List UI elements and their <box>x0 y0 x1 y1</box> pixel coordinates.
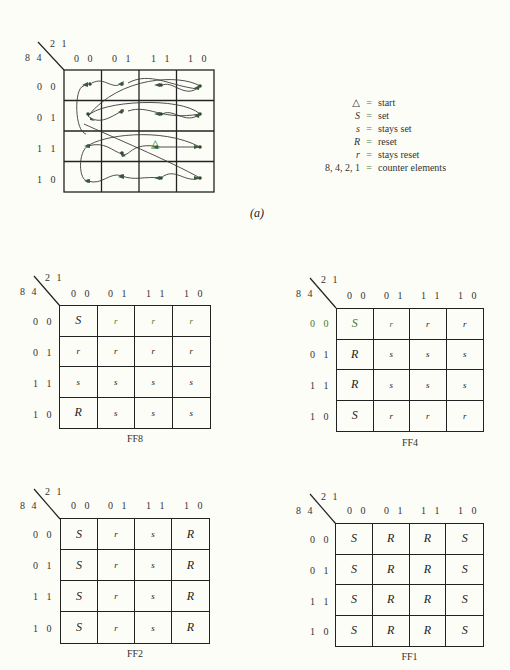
row-axis-label: 8 4 <box>25 52 44 63</box>
kmap-cell: r <box>410 401 447 432</box>
kmap-cell: R <box>410 524 447 555</box>
kmap-cell: r <box>60 337 98 368</box>
row-header: 1 0 <box>310 411 332 422</box>
kmap-cell: r <box>98 612 135 643</box>
kmap-cell: S <box>336 524 373 555</box>
legend-value: counter elements <box>378 162 446 173</box>
legend-key: R <box>265 136 360 147</box>
kmap-cell: S <box>336 555 373 586</box>
legend-item: s = stays set <box>265 122 446 135</box>
kmap-cell: S <box>446 616 483 647</box>
col-header: 0 0 <box>71 288 93 299</box>
legend-value: set <box>378 110 389 121</box>
kmap-cell: r <box>135 337 173 368</box>
row-axis-label: 8 4 <box>296 505 315 516</box>
col-axis-label: 2 1 <box>321 274 340 285</box>
kmap-cell: s <box>135 367 173 398</box>
kmap-grid: S r r r R s s s R s s s S r r r <box>336 308 484 432</box>
row-header: 0 1 <box>310 349 332 360</box>
row-header: 0 0 <box>33 529 55 540</box>
kmap-cell: r <box>98 337 136 368</box>
kmap-cell: R <box>410 616 447 647</box>
row-header: 0 0 <box>33 316 55 327</box>
col-header: 0 1 <box>108 500 130 511</box>
legend-eq: = <box>360 97 378 108</box>
legend-value: stays reset <box>378 149 419 160</box>
legend-value: start <box>378 97 395 108</box>
kmap-cell: R <box>172 581 209 612</box>
kmap-cell: R <box>337 370 374 401</box>
kmap-cell: s <box>135 581 172 612</box>
col-axis-label: 2 1 <box>50 38 69 49</box>
kmap-cell: s <box>447 340 484 371</box>
col-axis-label: 2 1 <box>45 486 64 497</box>
kmap-cell: s <box>98 367 136 398</box>
col-header: 1 0 <box>458 505 480 516</box>
col-header: 1 0 <box>184 500 206 511</box>
legend-key: 8, 4, 2, 1 <box>265 162 360 173</box>
kmap-caption: FF8 <box>59 433 211 444</box>
legend-key: △ <box>265 97 360 108</box>
kmap-cell: r <box>135 306 173 337</box>
col-header: 1 0 <box>458 290 480 301</box>
kmap-cell: s <box>410 370 447 401</box>
kmap-cell: S <box>337 309 374 340</box>
col-header: 0 0 <box>347 505 369 516</box>
col-header: 0 1 <box>108 288 130 299</box>
kmap-cell: s <box>374 370 411 401</box>
col-axis-label: 2 1 <box>321 491 340 502</box>
kmap-cell: r <box>98 519 135 550</box>
kmap-cell: s <box>173 398 211 429</box>
kmap-grid: S R R S S R R S S R R S S R R S <box>335 523 484 647</box>
kmap-cell: S <box>336 585 373 616</box>
row-header: 1 0 <box>37 174 59 185</box>
legend-key: r <box>265 149 360 160</box>
row-header: 1 0 <box>33 409 55 420</box>
col-header: 1 1 <box>421 505 443 516</box>
kmap-cell: r <box>447 401 484 432</box>
transition-grid <box>60 66 220 198</box>
kmap-cell: s <box>98 398 136 429</box>
kmap-cell: r <box>374 401 411 432</box>
col-header: 0 1 <box>112 53 134 64</box>
kmap-cell: R <box>172 612 209 643</box>
kmap-cell: S <box>60 306 98 337</box>
legend-key: s <box>265 123 360 134</box>
kmap-cell: S <box>337 401 374 432</box>
row-axis-label: 8 4 <box>296 288 315 299</box>
kmap-cell: R <box>410 585 447 616</box>
legend: △ = start S = set s = stays set R = rese… <box>265 96 446 174</box>
kmap-cell: s <box>447 370 484 401</box>
legend-item: S = set <box>265 109 446 122</box>
kmap-caption: FF2 <box>60 648 210 659</box>
kmap-cell: r <box>98 581 135 612</box>
col-axis-label: 2 1 <box>45 272 64 283</box>
kmap-caption: FF1 <box>335 651 484 662</box>
legend-item: 8, 4, 2, 1 = counter elements <box>265 161 446 174</box>
kmap-cell: r <box>173 337 211 368</box>
row-header: 0 0 <box>310 534 332 545</box>
kmap-cell: S <box>61 581 98 612</box>
legend-eq: = <box>360 162 378 173</box>
col-header: 0 1 <box>384 290 406 301</box>
kmap-cell: r <box>410 309 447 340</box>
kmap-cell: s <box>135 519 172 550</box>
kmap-cell: s <box>135 398 173 429</box>
start-marker-icon: △ <box>151 137 159 150</box>
row-header: 1 0 <box>310 626 332 637</box>
kmap-cell: r <box>447 309 484 340</box>
legend-value: stays set <box>378 123 412 134</box>
row-header: 0 0 <box>310 318 332 329</box>
kmap-cell: R <box>373 524 410 555</box>
legend-key: S <box>265 110 360 121</box>
row-header: 0 1 <box>33 347 55 358</box>
kmap-cell: S <box>446 555 483 586</box>
legend-item: r = stays reset <box>265 148 446 161</box>
col-header: 1 1 <box>151 53 173 64</box>
kmap-cell: R <box>172 550 209 581</box>
kmap-cell: R <box>337 340 374 371</box>
kmap-cell: S <box>61 550 98 581</box>
kmap-caption: FF4 <box>336 437 484 448</box>
row-axis-label: 8 4 <box>20 500 39 511</box>
kmap-cell: s <box>135 550 172 581</box>
